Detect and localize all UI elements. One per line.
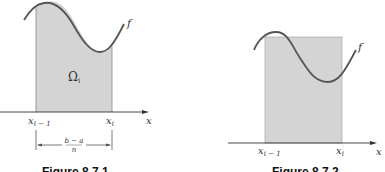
x-right-label: xi bbox=[336, 145, 344, 158]
figure-caption: Figure 8.7.2 bbox=[272, 165, 339, 172]
figure-right: f xi − 1 xi x Figure 8.7.2 bbox=[228, 32, 382, 172]
shaded-rectangle bbox=[265, 37, 342, 143]
figure-caption: Figure 8.7.1 bbox=[42, 165, 109, 172]
x-right-label: xi bbox=[106, 115, 114, 128]
figure-left: f Ωi xi − 1 xi x b − a n Figure 8.7.1 bbox=[0, 2, 152, 172]
function-label: f bbox=[357, 41, 364, 54]
figures-canvas: f Ωi xi − 1 xi x b − a n Figure 8.7.1 f … bbox=[0, 0, 385, 172]
width-denominator: n bbox=[72, 146, 77, 154]
shaded-region bbox=[36, 2, 112, 112]
x-axis-arrow bbox=[370, 141, 377, 145]
function-label: f bbox=[126, 17, 133, 30]
axis-label: x bbox=[146, 115, 152, 126]
axis-label: x bbox=[376, 146, 382, 157]
x-left-label: xi − 1 bbox=[28, 115, 51, 128]
width-numerator: b − a bbox=[65, 137, 84, 145]
x-left-label: xi − 1 bbox=[258, 145, 281, 158]
x-axis-arrow bbox=[142, 110, 149, 114]
